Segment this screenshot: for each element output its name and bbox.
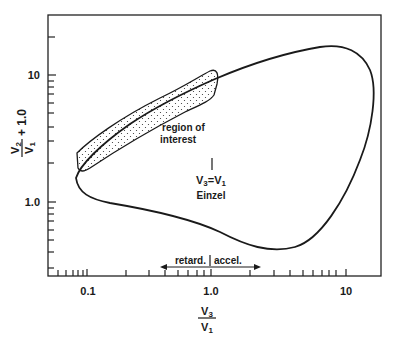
retard-accel-indicator: retard. accel. xyxy=(160,255,261,270)
retard-label: retard. xyxy=(175,255,206,266)
svg-text:V1: V1 xyxy=(23,142,37,154)
svg-text:+ 1.0: + 1.0 xyxy=(15,109,29,136)
arrow-left-icon xyxy=(160,264,167,270)
svg-text:V3: V3 xyxy=(201,305,213,319)
region-label-line1: region of xyxy=(162,122,205,133)
x-axis-ticks xyxy=(58,269,346,276)
region-of-interest-shape xyxy=(77,70,218,171)
y-tick-label-1: 1.0 xyxy=(25,196,40,208)
accel-label: accel. xyxy=(214,255,242,266)
y-axis-label: V2 V1 + 1.0 xyxy=(9,109,37,157)
svg-text:V1: V1 xyxy=(201,321,213,335)
arrow-right-icon xyxy=(254,264,261,270)
x-tick-label-0.1: 0.1 xyxy=(80,285,95,297)
svg-text:V2: V2 xyxy=(9,142,23,154)
y-tick-label-10: 10 xyxy=(28,69,40,81)
einzel-label: Einzel xyxy=(197,190,226,201)
x-axis-label: V3 V1 xyxy=(198,305,216,335)
x-tick-label-1: 1.0 xyxy=(203,285,218,297)
diagram-canvas: 10 1.0 0.1 1.0 10 V3 V1 V2 V1 + 1.0 regi… xyxy=(0,0,394,337)
x-tick-label-10: 10 xyxy=(340,285,352,297)
einzel-equation: V3=V1 xyxy=(196,174,227,188)
region-label-line2: interest xyxy=(160,134,197,145)
y-axis-ticks xyxy=(48,37,56,268)
